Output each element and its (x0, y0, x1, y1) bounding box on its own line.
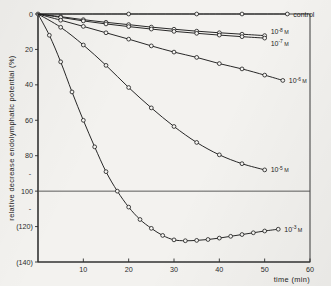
data-point (263, 36, 267, 40)
data-point (276, 227, 280, 231)
data-point (104, 22, 108, 26)
data-point (229, 234, 233, 238)
series-1e-8-m (38, 14, 267, 38)
data-point (104, 170, 108, 174)
series-1e-6-m (38, 14, 285, 82)
data-point (127, 205, 131, 209)
data-point (81, 19, 85, 23)
data-point (263, 229, 267, 233)
data-point (240, 67, 244, 71)
x-tick-label-30: 30 (170, 265, 178, 274)
data-point (285, 12, 289, 16)
data-point (104, 31, 108, 35)
y-tick-label-20: 20 (25, 45, 33, 54)
y-tick-label-0: 0 (29, 10, 33, 19)
data-point (195, 12, 199, 16)
data-point (127, 25, 131, 29)
data-point (263, 168, 267, 172)
data-point (217, 153, 221, 157)
data-point (183, 239, 187, 243)
data-point (251, 231, 255, 235)
data-point (172, 238, 176, 242)
data-point (104, 63, 108, 67)
series-label-1e-6-m: 10-6M (289, 77, 308, 84)
data-point (206, 238, 210, 242)
y-minor-tick-90: - (29, 169, 32, 178)
data-point (149, 27, 153, 31)
x-tick-label-20: 20 (125, 265, 133, 274)
y-tick-label-120: (120) (16, 222, 33, 231)
data-point (81, 25, 85, 29)
data-point (195, 238, 199, 242)
y-tick-label-60: 60 (25, 116, 33, 125)
data-point (127, 12, 131, 16)
data-point (93, 145, 97, 149)
data-point (195, 31, 199, 35)
data-point (70, 90, 74, 94)
data-point (195, 141, 199, 145)
data-point (172, 125, 176, 129)
series-label-1e-5-m: 10-5M (271, 166, 290, 173)
data-point (59, 18, 63, 22)
series-label-1e-8-m: 10-8M (271, 28, 290, 35)
data-point (149, 44, 153, 48)
y-tick-label-80: 80 (25, 151, 33, 160)
data-point (161, 234, 165, 238)
data-point (47, 33, 51, 37)
data-point (115, 189, 119, 193)
data-point (281, 79, 285, 83)
series-label-1e-3-m: 10-3M (284, 225, 303, 232)
data-point (263, 73, 267, 77)
y-axis-title: relative decrease endolymphatic potentia… (7, 55, 16, 220)
series-group (36, 12, 289, 243)
data-point (138, 218, 142, 222)
data-point (195, 56, 199, 60)
series-line (38, 14, 283, 80)
y-minor-tick-110: - (29, 204, 32, 213)
data-point (240, 35, 244, 39)
data-point (240, 233, 244, 237)
y-tick-label-40: 40 (25, 80, 33, 89)
series-label-1e-7-m: 10-7M (271, 39, 290, 46)
data-point (149, 226, 153, 230)
series-label-control: control (293, 11, 314, 18)
x-tick-label-40: 40 (215, 265, 223, 274)
data-point (172, 50, 176, 54)
data-point (240, 162, 244, 166)
data-point (59, 25, 63, 29)
data-point (127, 37, 131, 41)
data-point (240, 12, 244, 16)
data-point (81, 118, 85, 122)
x-tick-label-10: 10 (79, 265, 87, 274)
data-point (217, 62, 221, 66)
x-tick-label-60: 60 (306, 265, 314, 274)
line-chart: 020406080100(120)(140)--102030405060time… (0, 0, 331, 286)
series-line (38, 14, 265, 36)
data-point (59, 60, 63, 64)
data-point (127, 86, 131, 90)
y-tick-label-140: (140) (16, 258, 33, 267)
data-point (217, 33, 221, 37)
data-point (81, 43, 85, 47)
data-point (149, 106, 153, 110)
x-tick-label-50: 50 (261, 265, 269, 274)
x-axis-title: time (min) (274, 275, 310, 284)
series-control (36, 12, 289, 16)
data-point (217, 236, 221, 240)
figure-container: 020406080100(120)(140)--102030405060time… (0, 0, 331, 286)
data-point (172, 29, 176, 33)
y-tick-label-100: 100 (21, 187, 33, 196)
